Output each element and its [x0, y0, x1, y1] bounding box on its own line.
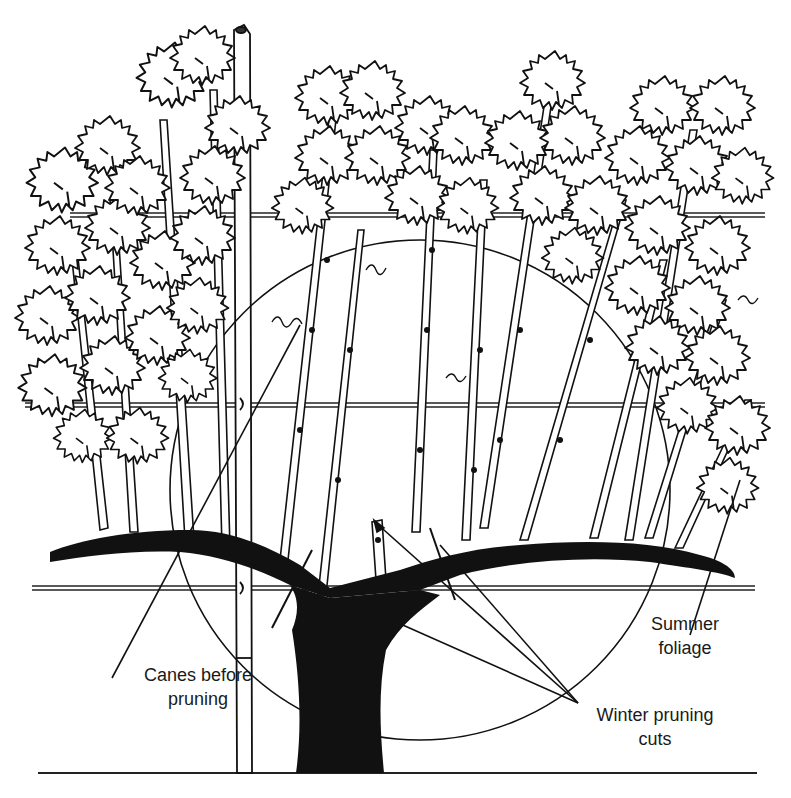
label-winter-pruning-cuts: Winter pruning cuts — [570, 703, 740, 751]
label-canes-line1: Canes before — [118, 663, 278, 687]
label-summer-line1: Summer — [630, 612, 740, 636]
summer-foliage — [15, 26, 774, 514]
label-winter-line1: Winter pruning — [570, 703, 740, 727]
trunk — [290, 585, 440, 773]
label-summer-line2: foliage — [630, 636, 740, 660]
leader-winter-2 — [440, 545, 578, 703]
leader-winter-3 — [396, 622, 578, 703]
label-summer-foliage: Summer foliage — [630, 612, 740, 660]
label-canes-line2: pruning — [118, 687, 278, 711]
label-canes-before-pruning: Canes before pruning — [118, 663, 278, 711]
label-winter-line2: cuts — [570, 727, 740, 751]
